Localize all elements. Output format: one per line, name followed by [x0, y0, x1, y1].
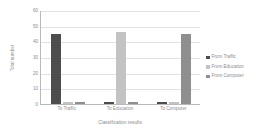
y-axis-tick-label: 10 — [33, 87, 38, 92]
legend-swatch — [206, 75, 210, 79]
chart-legend: From TrafficFrom EducationFrom Computer — [206, 55, 244, 79]
y-axis-tick-label: 0 — [35, 103, 38, 108]
bar — [181, 34, 191, 105]
bar — [169, 102, 179, 104]
bar — [128, 102, 138, 104]
legend-swatch — [206, 56, 210, 60]
legend-label: From Computer — [212, 74, 244, 79]
x-axis-title: Classification results — [40, 121, 200, 126]
legend-item: From Traffic — [206, 55, 244, 60]
bar — [51, 34, 61, 105]
y-axis-tick-label: 60 — [33, 9, 38, 14]
bar-group — [94, 11, 147, 104]
x-axis-ticks: To TrafficTo EducationTo Computer — [40, 107, 200, 112]
bar — [75, 102, 85, 104]
y-axis-tick-label: 40 — [33, 40, 38, 45]
bar — [116, 32, 126, 104]
legend-item: From Computer — [206, 74, 244, 79]
bar — [157, 102, 167, 104]
x-axis-tick-label: To Education — [93, 107, 146, 112]
bar-chart: Total number 0102030405060 To TrafficTo … — [0, 0, 272, 135]
x-axis-tick-label: To Traffic — [40, 107, 93, 112]
y-axis-tick-label: 30 — [33, 56, 38, 61]
legend-swatch — [206, 65, 210, 69]
bar-group — [41, 11, 94, 104]
x-axis-tick-label: To Computer — [147, 107, 200, 112]
bar — [104, 102, 114, 104]
bar-groups — [41, 11, 200, 104]
y-axis-title: Total number — [11, 45, 16, 72]
legend-label: From Education — [212, 65, 244, 70]
bar-group — [147, 11, 200, 104]
plot-area: 0102030405060 — [40, 11, 200, 105]
bar — [63, 102, 73, 104]
y-axis-tick-label: 20 — [33, 71, 38, 76]
y-axis-tick-label: 50 — [33, 24, 38, 29]
legend-label: From Traffic — [212, 55, 236, 60]
legend-item: From Education — [206, 65, 244, 70]
